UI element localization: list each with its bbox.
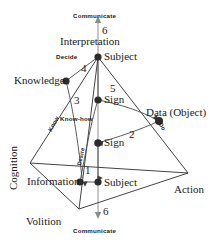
node-label-knowledge: Knowledge [14,75,65,86]
node-label-information: Information [27,176,80,187]
edge-label-know-how: Know-how [60,116,93,122]
vertex-label-interpretation: Interpretation [60,36,120,47]
edge-number-3: 3 [74,95,80,106]
edge-number-5: 5 [110,83,116,94]
axis-number-bottom: 6 [103,206,109,217]
edge-number-1: 1 [85,165,91,176]
node-label-sign-lower: Sign [104,137,124,148]
node-label-subject-bottom: Subject [104,177,137,188]
vertex-label-volition: Volition [26,216,61,227]
diagram-canvas: Communicate 6 6 Communicate Interpretati… [0,0,217,245]
edge-label-decide: Decide [56,54,78,60]
axis-label-communicate-top: Communicate [73,13,116,19]
edge-number-4: 4 [81,63,87,74]
node-subject-top [94,53,101,60]
node-label-sign-upper: Sign [104,94,124,105]
edge-number-2: 2 [129,129,135,140]
node-label-subject-top: Subject [104,51,137,62]
node-sign-upper [94,96,101,103]
node-label-data-object: Data (Object) [146,107,206,118]
axis-label-communicate-bottom: Communicate [73,228,116,234]
node-subject-bottom [94,178,101,185]
vertex-label-cognition: Cognition [8,146,19,190]
node-sign-lower [94,139,102,147]
vertex-label-action: Action [174,184,204,195]
